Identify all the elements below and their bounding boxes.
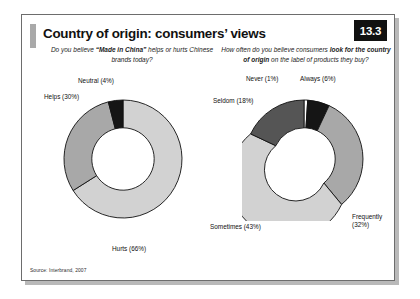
exhibit-number-badge: 13.3	[354, 20, 387, 41]
slice-sometimes	[242, 134, 342, 221]
donut-right-graphic	[242, 97, 366, 221]
label-helps: Helps (30%)	[44, 93, 79, 101]
donut-left-svg	[61, 97, 185, 221]
chart-made-in-china: Neutral (4%) Helps (30%) Hurts (66%)	[30, 67, 216, 257]
label-seldom: Seldom (18%)	[213, 97, 254, 105]
question-right-pre: How often do you believe consumers	[221, 46, 329, 53]
screenshot-root: Country of origin: consumers’ views 13.3…	[0, 0, 420, 299]
donut-right-svg	[242, 97, 366, 221]
label-frequently-line2: (32%)	[352, 221, 369, 229]
title-accent-bar	[30, 24, 36, 48]
exhibit-panel: Country of origin: consumers’ views 13.3…	[21, 14, 395, 281]
question-left-pre: Do you believe	[51, 46, 96, 53]
label-hurts: Hurts (66%)	[112, 245, 146, 253]
question-right: How often do you believe consumers look …	[218, 45, 394, 64]
page-title: Country of origin: consumers’ views	[43, 26, 266, 41]
question-left-strong: “Made in China”	[96, 46, 147, 53]
label-frequently-line1: Frequently	[352, 213, 382, 221]
chart-country-of-origin: Never (1%) Always (6%) Seldom (18%) Some…	[212, 67, 396, 257]
question-right-post: on the label of products they buy?	[269, 56, 368, 63]
label-always: Always (6%)	[300, 75, 336, 83]
donut-left-graphic	[61, 97, 185, 221]
slice-helps	[64, 102, 115, 191]
source-note: Source: Interbrand, 2007	[30, 268, 87, 273]
label-neutral: Neutral (4%)	[78, 77, 114, 85]
question-left: Do you believe “Made in China” helps or …	[44, 45, 220, 64]
label-never: Never (1%)	[246, 75, 278, 83]
label-sometimes: Sometimes (43%)	[210, 223, 261, 231]
